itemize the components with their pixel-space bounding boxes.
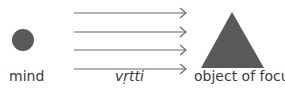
mind-circle — [12, 29, 34, 51]
object-of-focus-label: object of focus — [194, 68, 285, 84]
vrtti-label: vṛtti — [115, 68, 144, 84]
arrow-2 — [74, 27, 186, 37]
vrtti-arrows — [74, 8, 186, 74]
mind-label: mind — [9, 68, 44, 84]
arrow-1 — [74, 8, 186, 18]
object-triangle — [201, 12, 264, 68]
arrow-3 — [74, 45, 186, 55]
